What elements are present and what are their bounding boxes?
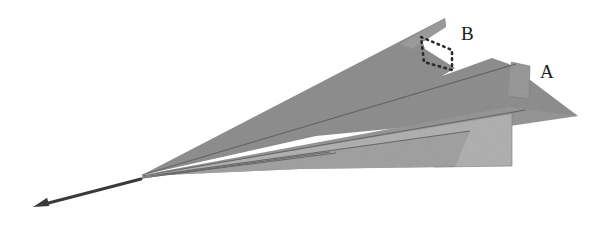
tab-a-facet (508, 62, 530, 99)
wedge-diagram: B A (0, 0, 603, 230)
figure-container: B A (0, 0, 603, 230)
label-b: B (461, 23, 474, 44)
label-a: A (540, 61, 554, 82)
